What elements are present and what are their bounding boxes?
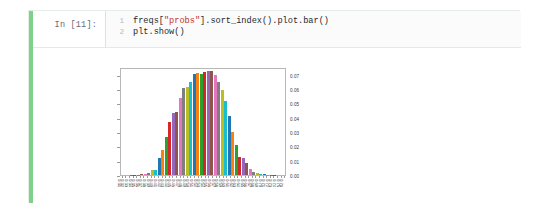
x-tick-mark bbox=[136, 176, 137, 178]
x-tick-mark bbox=[241, 176, 242, 178]
x-tick-mark bbox=[180, 176, 181, 178]
cell-output-row: 0.000.010.020.030.040.050.060.07 0.310.3… bbox=[33, 48, 521, 202]
x-tick-mark bbox=[147, 176, 148, 178]
x-tick-mark bbox=[154, 176, 155, 178]
x-tick-mark bbox=[245, 176, 246, 178]
y-tick-mark bbox=[117, 76, 120, 77]
y-tick-mark bbox=[117, 147, 120, 148]
y-tick-mark bbox=[117, 104, 120, 105]
code-input-row[interactable]: In [11]: 1freqs["probs"].sort_index().pl… bbox=[33, 11, 521, 48]
y-tick-label: 0.03 bbox=[273, 131, 299, 136]
code-line[interactable]: 2plt.show() bbox=[106, 27, 521, 38]
x-tick-mark bbox=[169, 176, 170, 178]
x-tick-mark bbox=[151, 176, 152, 178]
bar-series bbox=[121, 69, 285, 175]
x-tick-mark bbox=[284, 176, 285, 178]
code-line[interactable]: 1freqs["probs"].sort_index().plot.bar() bbox=[106, 16, 521, 27]
code-token: freqs[ bbox=[133, 16, 164, 26]
y-tick-mark bbox=[117, 133, 120, 134]
x-tick-mark bbox=[277, 176, 278, 178]
x-tick-mark bbox=[216, 176, 217, 178]
x-tick-mark bbox=[122, 176, 123, 178]
y-tick-mark bbox=[117, 119, 120, 120]
x-tick-mark bbox=[259, 176, 260, 178]
x-tick-mark bbox=[270, 176, 271, 178]
plot-axes bbox=[120, 68, 286, 176]
x-tick-mark bbox=[187, 176, 188, 178]
notebook-cell[interactable]: In [11]: 1freqs["probs"].sort_index().pl… bbox=[28, 10, 520, 202]
x-tick-mark bbox=[158, 176, 159, 178]
code-string-token: "probs" bbox=[164, 16, 200, 26]
x-tick-mark bbox=[140, 176, 141, 178]
x-tick-mark bbox=[266, 176, 267, 178]
x-tick-mark bbox=[237, 176, 238, 178]
input-prompt-label: In [11]: bbox=[47, 20, 97, 30]
x-tick-mark bbox=[230, 176, 231, 178]
y-tick-label: 0.01 bbox=[273, 159, 299, 164]
x-tick-mark bbox=[162, 176, 163, 178]
x-tick-mark bbox=[234, 176, 235, 178]
x-tick-mark bbox=[198, 176, 199, 178]
code-token: ].sort_index().plot.bar() bbox=[200, 16, 329, 26]
x-tick-mark bbox=[205, 176, 206, 178]
x-tick-mark bbox=[172, 176, 173, 178]
code-editor[interactable]: 1freqs["probs"].sort_index().plot.bar()2… bbox=[105, 11, 521, 47]
y-tick-label: 0.06 bbox=[273, 88, 299, 93]
x-tick-mark bbox=[201, 176, 202, 178]
y-tick-label: 0.05 bbox=[273, 102, 299, 107]
x-tick-mark bbox=[176, 176, 177, 178]
x-tick-mark bbox=[273, 176, 274, 178]
y-tick-mark bbox=[117, 90, 120, 91]
x-tick-mark bbox=[252, 176, 253, 178]
x-tick-mark bbox=[281, 176, 282, 178]
x-axis-ticks: 0.310.320.330.340.350.360.370.380.390.40… bbox=[120, 176, 286, 196]
x-tick-mark bbox=[255, 176, 256, 178]
x-tick-mark bbox=[125, 176, 126, 178]
x-tick-mark bbox=[248, 176, 249, 178]
x-tick-mark bbox=[183, 176, 184, 178]
x-tick-mark bbox=[194, 176, 195, 178]
y-tick-label: 0.04 bbox=[273, 116, 299, 121]
y-tick-mark bbox=[117, 162, 120, 163]
x-tick-mark bbox=[263, 176, 264, 178]
x-tick-mark bbox=[208, 176, 209, 178]
y-tick-label: 0.02 bbox=[273, 145, 299, 150]
x-tick-mark bbox=[165, 176, 166, 178]
x-tick-mark bbox=[212, 176, 213, 178]
code-token: plt.show() bbox=[133, 27, 185, 37]
matplotlib-figure: 0.000.010.020.030.040.050.060.07 0.310.3… bbox=[89, 63, 299, 197]
x-tick-mark bbox=[190, 176, 191, 178]
x-tick-mark bbox=[226, 176, 227, 178]
x-tick-mark bbox=[129, 176, 130, 178]
x-tick-mark bbox=[143, 176, 144, 178]
x-tick-mark bbox=[219, 176, 220, 178]
x-tick-mark bbox=[223, 176, 224, 178]
line-number: 2 bbox=[106, 27, 124, 38]
x-tick-mark bbox=[133, 176, 134, 178]
x-tick-label: 0.76 bbox=[279, 179, 284, 187]
y-tick-label: 0.07 bbox=[273, 74, 299, 79]
line-number: 1 bbox=[106, 16, 124, 27]
